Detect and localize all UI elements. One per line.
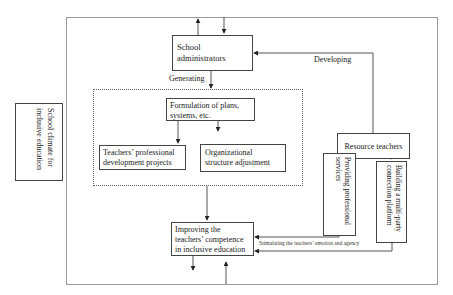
providing-services-label: Providing professional services — [334, 157, 352, 225]
building-platform-label: Building a multi-party connection platfo… — [385, 165, 403, 232]
developing-label: Developing — [314, 55, 351, 64]
teachers-pd-node: Teachers’ professional development proje… — [99, 145, 186, 170]
org-structure-node: Organizational structure adjustment — [200, 144, 286, 172]
school-administrators-label: School administrators — [177, 42, 248, 64]
formulation-node: Formulation of plans, systems, etc. — [166, 98, 255, 121]
building-platform-node: Building a multi-party connection platfo… — [376, 161, 407, 243]
school-administrators-node: School administrators — [172, 35, 253, 71]
stimulating-label: Stimulating the teachers’ emotion and ag… — [259, 240, 359, 246]
resource-teachers-label: Resource teachers — [345, 141, 403, 152]
generating-label: Generating — [169, 74, 205, 83]
formulation-label: Formulation of plans, systems, etc. — [170, 101, 239, 120]
providing-services-node: Providing professional services — [323, 153, 356, 236]
teachers-pd-label: Teachers’ professional development proje… — [103, 148, 174, 167]
improving-competence-node: Improving the teachers’ competence in in… — [171, 222, 254, 256]
org-structure-label: Organizational structure adjustment — [205, 148, 270, 167]
improving-competence-label: Improving the teachers’ competence in in… — [175, 225, 245, 254]
